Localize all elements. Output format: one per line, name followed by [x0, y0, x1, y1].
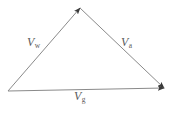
vector-triangle-figure: Vw Va Vg	[0, 0, 173, 119]
vector-diagram-canvas	[0, 0, 173, 119]
vector-line-vg	[8, 88, 164, 91]
vector-label-va-subscript: a	[128, 41, 132, 50]
vector-label-vw: Vw	[27, 36, 40, 50]
vector-label-va: Va	[121, 36, 132, 50]
vector-line-vw	[8, 8, 80, 91]
vector-label-vw-subscript: w	[34, 41, 40, 50]
vector-label-vg: Vg	[74, 90, 85, 104]
vector-label-vg-subscript: g	[81, 95, 85, 104]
